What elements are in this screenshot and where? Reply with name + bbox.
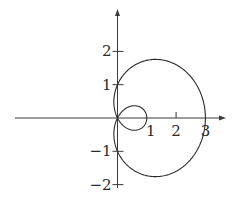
- y-tick-label: −2: [89, 176, 111, 194]
- y-tick-label: 2: [102, 42, 112, 60]
- y-axis-arrow-icon: [115, 9, 120, 16]
- y-tick-label: −1: [89, 142, 111, 160]
- x-axis: [15, 116, 226, 121]
- y-tick-label: 1: [102, 76, 112, 94]
- x-ticks: 123: [146, 112, 210, 140]
- x-tick-label: 1: [146, 122, 156, 140]
- x-tick-label: 2: [171, 122, 181, 140]
- polar-plot: 123 21−1−2: [0, 0, 235, 201]
- y-axis: [115, 9, 120, 188]
- x-axis-arrow-icon: [219, 116, 226, 121]
